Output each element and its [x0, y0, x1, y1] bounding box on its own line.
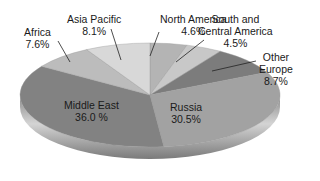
label-other-europe: Other Europe 8.7%	[259, 51, 293, 87]
label-south-central-america: South and Central America 4.5%	[198, 13, 273, 49]
label-russia: Russia 30.5%	[170, 101, 202, 125]
pie-slices	[20, 43, 280, 147]
label-africa: Africa 7.6%	[24, 26, 51, 50]
label-asia-pacific: Asia Pacific 8.1%	[67, 13, 121, 37]
label-middle-east: Middle East 36.0 %	[64, 99, 119, 123]
